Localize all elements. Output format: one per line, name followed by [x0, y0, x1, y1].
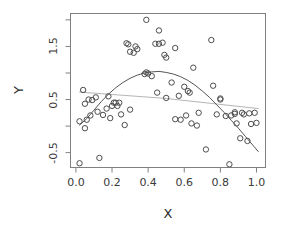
y-tick-label: -0.5: [46, 142, 59, 163]
plot-frame: [71, 14, 266, 168]
y-axis-ticks: [66, 20, 71, 153]
scatter-plot-figure: 0.00.20.40.60.81.0 -0.50.51.5 X Y: [0, 0, 285, 236]
x-axis-ticks: [76, 168, 257, 173]
plot-canvas: [0, 0, 285, 236]
x-tick-label: 0.0: [67, 176, 85, 189]
x-axis-title: X: [164, 206, 173, 221]
x-tick-label: 0.6: [176, 176, 194, 189]
x-tick-label: 1.0: [248, 176, 266, 189]
y-axis-title: Y: [11, 86, 26, 94]
x-tick-label: 0.2: [103, 176, 121, 189]
data-points: [77, 17, 259, 167]
x-tick-label: 0.8: [212, 176, 230, 189]
x-tick-label: 0.4: [139, 176, 157, 189]
y-tick-label: 1.5: [46, 38, 59, 56]
y-tick-label: 0.5: [46, 91, 59, 109]
